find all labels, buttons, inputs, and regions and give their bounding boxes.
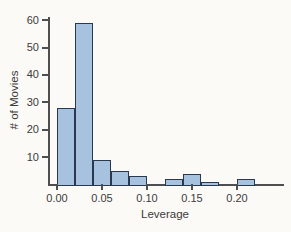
y-axis-tick bbox=[42, 47, 49, 49]
x-tick-label: 0.20 bbox=[222, 192, 252, 205]
leverage-histogram-figure: # of Movies Leverage 1020304050600.000.0… bbox=[0, 0, 291, 232]
x-axis-tick bbox=[101, 184, 103, 190]
y-tick-label: 50 bbox=[12, 41, 39, 54]
y-axis-tick bbox=[42, 101, 49, 103]
x-tick-label: 0.10 bbox=[132, 192, 162, 205]
x-axis-tick bbox=[146, 184, 148, 190]
x-axis-title: Leverage bbox=[110, 207, 220, 221]
x-tick-label: 0.00 bbox=[42, 192, 72, 205]
x-axis-tick bbox=[191, 184, 193, 190]
x-tick-label: 0.05 bbox=[87, 192, 117, 205]
histogram-bar bbox=[111, 171, 129, 186]
y-tick-label: 60 bbox=[12, 14, 39, 27]
histogram-bar bbox=[165, 179, 183, 186]
y-tick-label: 10 bbox=[12, 151, 39, 164]
histogram-bar bbox=[201, 182, 219, 186]
y-axis-tick bbox=[42, 74, 49, 76]
x-tick-label: 0.15 bbox=[177, 192, 207, 205]
x-axis-tick bbox=[236, 184, 238, 190]
y-tick-label: 30 bbox=[12, 96, 39, 109]
histogram-bar bbox=[93, 160, 111, 186]
y-tick-label: 40 bbox=[12, 68, 39, 81]
histogram-bar bbox=[57, 108, 75, 186]
histogram-bar bbox=[237, 179, 255, 186]
y-axis-tick bbox=[42, 19, 49, 21]
x-axis-tick bbox=[56, 184, 58, 190]
y-axis-tick bbox=[42, 129, 49, 131]
y-tick-label: 20 bbox=[12, 123, 39, 136]
histogram-bar bbox=[129, 176, 147, 186]
histogram-bar bbox=[75, 23, 93, 186]
plot-area: # of Movies Leverage 1020304050600.000.0… bbox=[0, 0, 291, 232]
y-axis-tick bbox=[42, 156, 49, 158]
